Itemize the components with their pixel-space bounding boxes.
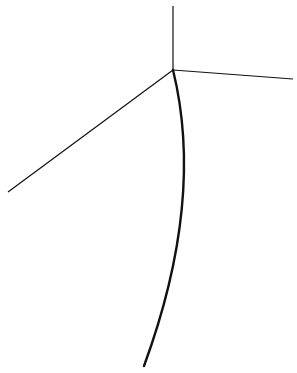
- line-right: [173, 70, 293, 79]
- thick-curve: [144, 70, 184, 366]
- line-left: [8, 70, 173, 192]
- diagram-canvas: [0, 0, 297, 373]
